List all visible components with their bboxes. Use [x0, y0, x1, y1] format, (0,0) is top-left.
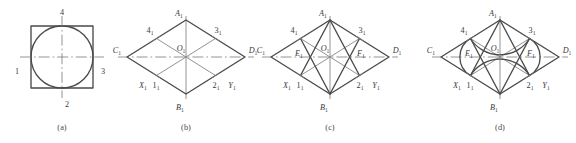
panel-b-label-B1: B1 [176, 103, 184, 113]
panel-b-label-3sub1: 31 [215, 26, 222, 36]
panel-d-label-2sub1: 21 [527, 81, 534, 91]
panel-c: A1 B1 C1 D1 O1 E1 F1 41 31 11 21 X1 Y1 (… [257, 9, 402, 132]
panel-d-label-O1: O1 [491, 44, 500, 54]
panel-d-label-Y1: Y1 [542, 81, 550, 91]
panel-d-label-1sub1: 11 [467, 81, 474, 91]
panel-a-caption: (a) [57, 123, 67, 132]
panel-b-label-4sub1: 41 [147, 26, 154, 36]
panel-a-label-top: 4 [60, 8, 64, 17]
panel-b-label-Y1: Y1 [228, 81, 236, 91]
panel-d-label-E1: E1 [464, 49, 473, 59]
panel-d: A1 B1 C1 D1 O1 E1 F1 41 31 11 21 X1 Y1 (… [427, 9, 572, 132]
panel-c-label-D1: D1 [392, 46, 402, 56]
panel-d-label-F1: F1 [526, 49, 535, 59]
panel-b: A1 B1 C1 D1 O1 41 31 11 21 X1 Y1 (b) [113, 9, 258, 132]
panel-d-label-C1: C1 [427, 46, 435, 56]
figure-svg: 4 1 3 2 (a) A1 B1 C1 [0, 0, 576, 143]
panel-c-label-F1: F1 [356, 49, 365, 59]
panel-c-caption: (c) [325, 123, 335, 132]
panel-c-label-A1: A1 [318, 9, 327, 19]
panel-c-label-Y1: Y1 [372, 81, 380, 91]
panel-c-label-2sub1: 21 [357, 81, 364, 91]
panel-c-label-4sub1: 41 [291, 26, 298, 36]
panel-a-label-right: 3 [101, 67, 105, 76]
panel-b-label-X1: X1 [138, 81, 147, 91]
panel-b-label-1sub1: 11 [153, 81, 160, 91]
panel-d-label-D1: D1 [562, 46, 572, 56]
figure-root: 4 1 3 2 (a) A1 B1 C1 [0, 0, 576, 143]
panel-b-caption: (b) [181, 123, 191, 132]
panel-b-label-2sub1: 21 [213, 81, 220, 91]
panel-c-label-3sub1: 31 [359, 26, 366, 36]
panel-c-label-B1: B1 [320, 103, 328, 113]
panel-c-label-C1: C1 [257, 46, 265, 56]
panel-d-label-A1: A1 [488, 9, 497, 19]
panel-a-label-bottom: 2 [65, 100, 69, 109]
panel-a-label-left: 1 [15, 67, 19, 76]
panel-b-label-A1: A1 [174, 9, 183, 19]
panel-b-label-O1: O1 [177, 44, 186, 54]
panel-b-label-C1: C1 [113, 46, 121, 56]
panel-d-caption: (d) [495, 123, 505, 132]
panel-d-label-4sub1: 41 [461, 26, 468, 36]
panel-d-label-3sub1: 31 [529, 26, 536, 36]
panel-a: 4 1 3 2 (a) [15, 8, 105, 132]
panel-c-label-E1: E1 [294, 49, 303, 59]
panel-c-label-O1: O1 [321, 44, 330, 54]
panel-d-label-X1: X1 [452, 81, 461, 91]
panel-c-label-X1: X1 [282, 81, 291, 91]
panel-c-label-1sub1: 11 [297, 81, 304, 91]
panel-d-label-B1: B1 [490, 103, 498, 113]
